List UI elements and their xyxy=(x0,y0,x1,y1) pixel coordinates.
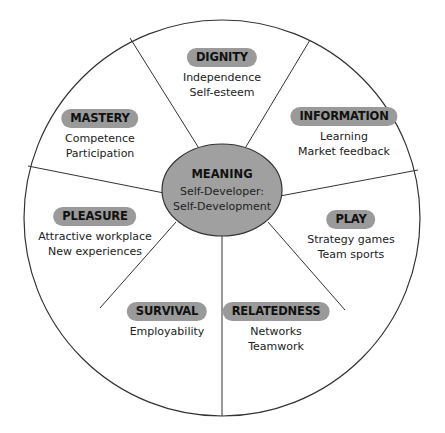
segment-item: Teamwork xyxy=(223,339,330,354)
spoke-pleasure-mastery xyxy=(28,166,164,193)
segment-survival: SURVIVAL Employability xyxy=(127,300,207,339)
center-title: MEANING xyxy=(173,167,271,181)
segment-label: RELATEDNESS xyxy=(223,302,330,321)
segment-relatedness: RELATEDNESS Networks Teamwork xyxy=(223,300,330,354)
segment-item: Learning xyxy=(290,129,397,144)
center-meaning: MEANING Self-Developer: Self-Development xyxy=(173,167,271,214)
segment-label: MASTERY xyxy=(61,109,138,128)
segment-label: PLAY xyxy=(326,210,375,229)
segment-item: Team sports xyxy=(307,247,395,262)
segment-mastery: MASTERY Competence Participation xyxy=(61,107,138,161)
segment-item: Independence xyxy=(183,70,261,85)
segment-pleasure: PLEASURE Attractive workplace New experi… xyxy=(38,205,152,259)
segment-label: SURVIVAL xyxy=(127,302,207,321)
segment-label: PLEASURE xyxy=(53,207,136,226)
center-line-1: Self-Developer: xyxy=(173,184,271,199)
segment-item: Self-esteem xyxy=(183,85,261,100)
center-line-2: Self-Development xyxy=(173,199,271,214)
segment-item: Participation xyxy=(61,146,138,161)
segment-information: INFORMATION Learning Market feedback xyxy=(290,105,397,159)
segment-item: Competence xyxy=(61,131,138,146)
segment-play: PLAY Strategy games Team sports xyxy=(307,208,395,262)
segment-label: INFORMATION xyxy=(290,107,397,126)
segment-dignity: DIGNITY Independence Self-esteem xyxy=(183,46,261,100)
segment-item: Market feedback xyxy=(290,144,397,159)
segment-item: New experiences xyxy=(38,244,152,259)
segment-item: Attractive workplace xyxy=(38,229,152,244)
spoke-information-play xyxy=(280,170,418,196)
segment-item: Networks xyxy=(223,324,330,339)
segment-label: DIGNITY xyxy=(187,48,257,67)
segment-item: Strategy games xyxy=(307,232,395,247)
segment-item: Employability xyxy=(127,324,207,339)
